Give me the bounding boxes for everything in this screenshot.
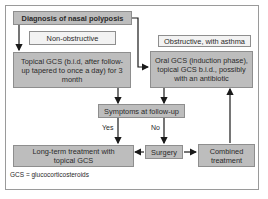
label-obstructive-text: Obstructive, with asthma bbox=[164, 37, 245, 46]
node-surgery: Surgery bbox=[145, 145, 183, 159]
node-long-term: Long-term treatment with topical GCS bbox=[13, 145, 134, 167]
node-combined: Combined treatment bbox=[198, 144, 255, 167]
edge-label-yes: Yes bbox=[102, 124, 113, 131]
node-symptoms: Symptoms at follow-up bbox=[98, 104, 185, 118]
label-non-obstructive-text: Non-obstructive bbox=[47, 34, 99, 43]
node-topical-gcs: Topical GCS (b.i.d, after follow-up tape… bbox=[13, 52, 131, 88]
node-surgery-text: Surgery bbox=[151, 148, 177, 157]
node-topical-gcs-text: Topical GCS (b.i.d, after follow-up tape… bbox=[17, 57, 127, 84]
node-combined-text: Combined treatment bbox=[205, 147, 248, 165]
node-diagnosis: Diagnosis of nasal polyposis bbox=[13, 11, 132, 25]
label-non-obstructive: Non-obstructive bbox=[29, 31, 116, 45]
node-diagnosis-text: Diagnosis of nasal polyposis bbox=[22, 14, 124, 23]
node-oral-gcs: Oral GCS (induction phase), topical GCS … bbox=[150, 51, 253, 88]
node-symptoms-text: Symptoms at follow-up bbox=[104, 107, 179, 116]
label-obstructive: Obstructive, with asthma bbox=[158, 35, 251, 47]
edge-label-no: No bbox=[151, 124, 160, 131]
node-oral-gcs-text: Oral GCS (induction phase), topical GCS … bbox=[154, 56, 249, 83]
footnote: GCS = glucocorticosteroids bbox=[10, 171, 89, 178]
node-long-term-text: Long-term treatment with topical GCS bbox=[22, 147, 125, 165]
